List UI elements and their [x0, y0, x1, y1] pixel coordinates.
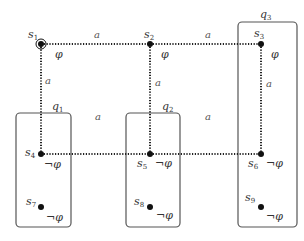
group-q2-label: q2: [162, 100, 174, 114]
state-s9-node: [258, 204, 264, 210]
state-s4-prop: ¬φ: [44, 158, 61, 171]
edges: [41, 44, 261, 154]
state-s3-prop: φ: [271, 48, 279, 61]
state-s4-node: [38, 151, 44, 157]
state-s8-node: [147, 204, 153, 210]
state-s5-label: s5: [137, 157, 147, 171]
state-s7-node: [38, 204, 44, 210]
kripke-diagram: q1 q2 q3 a a a a a a a s1: [0, 0, 304, 241]
edge-label-s1-s2: a: [94, 29, 100, 40]
state-s2-label: s2: [144, 28, 154, 42]
edge-label-s3-s6: a: [266, 78, 272, 89]
state-s1-label: s1: [28, 28, 38, 42]
state-s4-label: s4: [25, 146, 36, 160]
state-s6-node: [258, 151, 264, 157]
edge-label-s1-s4: a: [45, 75, 51, 86]
state-s1-prop: φ: [55, 48, 63, 61]
edge-label-s2-s5: a: [155, 77, 161, 88]
state-s2-prop: φ: [161, 48, 169, 61]
state-s7-label: s7: [26, 195, 36, 209]
group-q1-label: q1: [52, 100, 64, 114]
state-s1-node: [38, 41, 44, 47]
state-s3-label: s3: [254, 27, 264, 41]
state-s8-prop: ¬φ: [156, 209, 173, 222]
state-s9-prop: ¬φ: [266, 210, 283, 223]
edge-label-s5-s6: a: [205, 111, 211, 122]
state-s7-prop: ¬φ: [46, 211, 63, 224]
edge-label-s2-s3: a: [205, 29, 211, 40]
state-s6-prop: ¬φ: [266, 157, 283, 170]
edge-label-s4-s5: a: [95, 111, 101, 122]
group-q3-label: q3: [260, 8, 272, 22]
state-s9-label: s9: [245, 191, 255, 205]
state-s3-node: [258, 41, 264, 47]
state-s8-label: s8: [134, 195, 144, 209]
state-s5-node: [147, 151, 153, 157]
state-s5-prop: ¬φ: [155, 157, 172, 170]
state-s6-label: s6: [248, 157, 259, 171]
